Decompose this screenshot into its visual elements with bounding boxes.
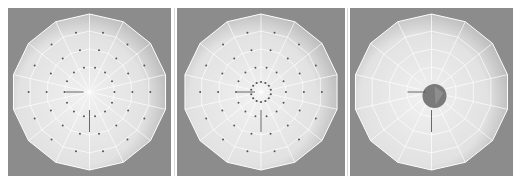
vertex xyxy=(299,110,301,112)
vertex xyxy=(299,72,301,74)
vertex xyxy=(238,102,240,104)
panel-divider xyxy=(174,8,175,176)
vertex xyxy=(270,93,272,95)
viewport-panel-2 xyxy=(177,8,345,176)
vertex xyxy=(260,81,262,83)
vertex xyxy=(270,89,272,91)
vertex xyxy=(282,102,284,104)
vertex xyxy=(264,82,266,84)
vertex xyxy=(321,91,323,93)
vertex xyxy=(102,150,104,152)
vertex xyxy=(276,71,278,73)
vertex xyxy=(222,43,224,45)
vertex xyxy=(73,71,75,73)
vertex xyxy=(143,117,145,119)
vertex xyxy=(282,80,284,82)
vertex xyxy=(64,91,66,93)
vertex xyxy=(264,100,266,102)
dome-mesh-1 xyxy=(8,8,171,176)
vertex xyxy=(94,115,96,117)
vertex xyxy=(238,80,240,82)
vertex xyxy=(274,32,276,34)
vertex xyxy=(127,72,129,74)
viewport-panel-3 xyxy=(350,8,513,176)
vertex xyxy=(83,67,85,69)
vertex xyxy=(126,139,128,141)
vertex xyxy=(131,91,133,93)
vertex xyxy=(126,43,128,45)
vertex xyxy=(149,91,151,93)
vertex xyxy=(102,32,104,34)
vertex xyxy=(266,67,268,69)
vertex xyxy=(250,89,252,91)
vertex xyxy=(244,71,246,73)
vertex xyxy=(256,100,258,102)
vertex xyxy=(143,65,145,67)
vertex xyxy=(62,57,64,59)
vertex xyxy=(199,91,201,93)
vertex xyxy=(104,111,106,113)
vertex xyxy=(79,133,81,135)
vertex xyxy=(252,97,254,99)
vertex xyxy=(46,91,48,93)
dome-mesh-3 xyxy=(350,8,513,176)
vertex xyxy=(287,57,289,59)
vertex xyxy=(113,91,115,93)
vertex xyxy=(66,80,68,82)
vertex xyxy=(34,65,36,67)
vertex xyxy=(205,65,207,67)
vertex xyxy=(51,43,53,45)
vertex xyxy=(104,71,106,73)
vertex xyxy=(266,115,268,117)
vertex xyxy=(303,91,305,93)
vertex xyxy=(111,102,113,104)
vertex xyxy=(28,91,30,93)
vertex xyxy=(205,117,207,119)
vertex xyxy=(252,85,254,87)
vertex xyxy=(235,91,237,93)
vertex xyxy=(222,139,224,141)
vertex xyxy=(127,110,129,112)
vertex xyxy=(260,101,262,103)
vertex xyxy=(315,65,317,67)
vertex xyxy=(270,133,272,135)
vertex xyxy=(79,49,81,51)
vertex xyxy=(51,139,53,141)
center-hole xyxy=(423,84,447,108)
vertex xyxy=(285,91,287,93)
vertex xyxy=(50,72,52,74)
vertex xyxy=(83,115,85,117)
vertex xyxy=(287,125,289,127)
viewport-panel-1 xyxy=(8,8,171,176)
vertex xyxy=(233,57,235,59)
vertex xyxy=(98,49,100,51)
vertex xyxy=(217,91,219,93)
vertex xyxy=(98,133,100,135)
dome-mesh-2 xyxy=(177,8,345,176)
vertex xyxy=(221,110,223,112)
vertex xyxy=(66,102,68,104)
vertex xyxy=(254,67,256,69)
vertex xyxy=(221,72,223,74)
vertex xyxy=(233,125,235,127)
vertex xyxy=(250,49,252,51)
vertex xyxy=(246,150,248,152)
vertex xyxy=(50,110,52,112)
vertex xyxy=(270,49,272,51)
vertex xyxy=(254,115,256,117)
vertex xyxy=(111,80,113,82)
vertex xyxy=(315,117,317,119)
vertex xyxy=(75,32,77,34)
vertex xyxy=(250,133,252,135)
vertex xyxy=(246,32,248,34)
vertex xyxy=(115,57,117,59)
vertex xyxy=(256,82,258,84)
vertex xyxy=(62,125,64,127)
vertex xyxy=(298,139,300,141)
vertex xyxy=(250,93,252,95)
vertex xyxy=(94,67,96,69)
vertex xyxy=(298,43,300,45)
vertex xyxy=(244,111,246,113)
vertex xyxy=(34,117,36,119)
vertex xyxy=(73,111,75,113)
